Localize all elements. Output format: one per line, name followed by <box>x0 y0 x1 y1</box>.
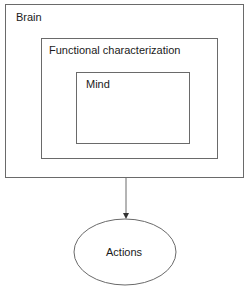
actions-label: Actions <box>106 247 142 258</box>
arrowhead-icon <box>123 213 129 219</box>
